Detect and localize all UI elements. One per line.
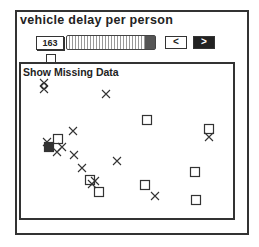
cross-marker [78, 164, 86, 172]
cross-marker [102, 90, 110, 98]
cross-marker [70, 151, 78, 159]
square-marker [95, 188, 104, 197]
square-marker [192, 196, 201, 205]
square-marker [205, 125, 214, 134]
cross-marker [151, 192, 159, 200]
square-marker [141, 181, 150, 190]
square-marker [191, 168, 200, 177]
cross-marker [53, 148, 61, 156]
square-marker [143, 116, 152, 125]
circle-marker [41, 83, 47, 89]
cross-marker [205, 133, 213, 141]
cross-marker [69, 127, 77, 135]
scatter-plot [0, 0, 259, 247]
cross-marker [113, 157, 121, 165]
square-marker [54, 135, 63, 144]
